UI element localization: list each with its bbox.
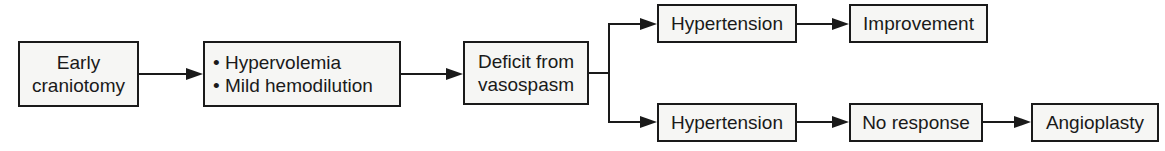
node-text-line: Early bbox=[57, 51, 100, 74]
connector-early-to-treatment bbox=[138, 73, 188, 75]
arrowhead-icon bbox=[446, 68, 463, 80]
connector-treatment-to-deficit bbox=[400, 73, 448, 75]
arrowhead-icon bbox=[640, 116, 657, 128]
arrowhead-icon bbox=[832, 18, 849, 30]
node-text-line: Hypertension bbox=[671, 12, 783, 35]
node-text-line: Hypertension bbox=[671, 111, 783, 134]
node-angioplasty: Angioplasty bbox=[1031, 103, 1159, 142]
node-hypertension-bottom: Hypertension bbox=[657, 103, 797, 142]
node-text-line: craniotomy bbox=[32, 74, 125, 97]
arrowhead-icon bbox=[1014, 116, 1031, 128]
arrowhead-icon bbox=[640, 18, 657, 30]
node-text-line: Improvement bbox=[863, 12, 974, 35]
connector-branch-vertical bbox=[608, 23, 610, 123]
node-improvement: Improvement bbox=[849, 4, 988, 43]
connector-branch-top bbox=[608, 23, 642, 25]
node-text-line: No response bbox=[862, 111, 970, 134]
bullet-item: • Hypervolemia bbox=[213, 51, 341, 74]
bullet-item: • Mild hemodilution bbox=[213, 74, 373, 97]
node-text-line: vasospasm bbox=[478, 73, 574, 96]
arrowhead-icon bbox=[832, 116, 849, 128]
connector-deficit-branch bbox=[588, 72, 610, 74]
node-text-line: Angioplasty bbox=[1046, 111, 1144, 134]
node-text-line: Deficit from bbox=[478, 50, 574, 73]
node-deficit-from-vasospasm: Deficit from vasospasm bbox=[463, 41, 589, 105]
connector-branch-bottom bbox=[608, 121, 642, 123]
connector-no-response-to-angioplasty bbox=[982, 121, 1016, 123]
node-no-response: No response bbox=[849, 103, 983, 142]
node-hypervolemia-hemodilution: • Hypervolemia • Mild hemodilution bbox=[203, 41, 401, 107]
arrowhead-icon bbox=[186, 68, 203, 80]
node-early-craniotomy: Early craniotomy bbox=[18, 41, 139, 107]
node-hypertension-top: Hypertension bbox=[657, 4, 797, 43]
connector-hypertension-to-improvement bbox=[796, 23, 834, 25]
connector-hypertension-to-no-response bbox=[796, 121, 834, 123]
